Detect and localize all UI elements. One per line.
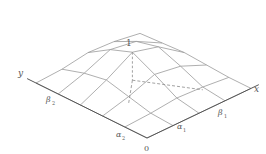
grid-line bbox=[181, 66, 203, 87]
grid-line bbox=[125, 113, 151, 127]
y-axis-label: y bbox=[17, 68, 24, 78]
grid-line bbox=[177, 98, 199, 113]
svg-text:1: 1 bbox=[224, 113, 227, 119]
grid-line bbox=[184, 53, 206, 65]
surface-diagram: x y 0 1 α 1 β 1 α 2 β 2 bbox=[0, 0, 266, 154]
dashed-diagonal-left bbox=[129, 80, 133, 103]
grid-line bbox=[84, 73, 106, 80]
grid-line bbox=[207, 65, 229, 77]
grid-line bbox=[229, 77, 251, 88]
beta1-label: β 1 bbox=[217, 108, 227, 119]
grid-line bbox=[162, 43, 184, 53]
grid-line bbox=[36, 69, 62, 83]
grid-line bbox=[84, 50, 110, 74]
grid-line bbox=[132, 47, 158, 52]
grid-line bbox=[62, 53, 88, 70]
svg-text:β: β bbox=[45, 95, 51, 104]
svg-text:β: β bbox=[217, 108, 223, 117]
grid-line bbox=[110, 50, 132, 53]
grid-line bbox=[181, 65, 207, 66]
grid-line bbox=[129, 97, 151, 114]
grid-line bbox=[129, 74, 155, 96]
grid-line bbox=[155, 66, 181, 74]
grid-line bbox=[151, 98, 177, 113]
svg-text:2: 2 bbox=[52, 100, 55, 106]
x-axis bbox=[147, 85, 259, 138]
alpha2-label: α 2 bbox=[116, 130, 125, 141]
surface-grid bbox=[36, 33, 251, 138]
svg-text:1: 1 bbox=[183, 127, 186, 133]
grid-line bbox=[110, 41, 136, 49]
grid-line bbox=[203, 87, 225, 101]
y-axis bbox=[27, 79, 147, 138]
x-axis-label: x bbox=[254, 84, 259, 94]
grid-line bbox=[177, 87, 203, 98]
axis-labels: x y 0 1 α 1 β 1 α 2 β 2 bbox=[17, 38, 259, 153]
grid-line bbox=[132, 52, 154, 74]
peak-label: 1 bbox=[126, 38, 132, 48]
origin-label: 0 bbox=[144, 144, 149, 153]
grid-line bbox=[62, 69, 84, 73]
grid-line bbox=[151, 113, 173, 125]
svg-text:2: 2 bbox=[122, 135, 125, 141]
beta2-label: β 2 bbox=[45, 95, 55, 106]
grid-line bbox=[106, 52, 132, 80]
grid-line bbox=[58, 73, 84, 94]
grid-line bbox=[80, 80, 106, 105]
grid-line bbox=[203, 77, 229, 87]
grid-line bbox=[106, 80, 128, 97]
axes bbox=[27, 79, 259, 138]
alpha1-label: α 1 bbox=[177, 122, 186, 133]
grid-line bbox=[103, 97, 129, 116]
